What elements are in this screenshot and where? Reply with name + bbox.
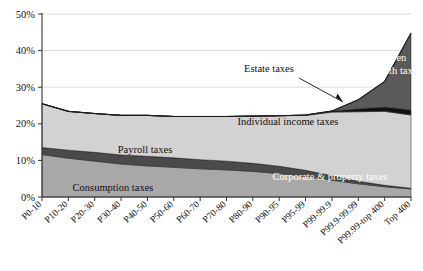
x-tick-label: P70-80 — [201, 199, 228, 225]
tax-rate-area-chart: 0%10%20%30%40%50% P0-10P10-20P20-30P30-4… — [0, 0, 423, 271]
x-tick-label-group: P99.99-top 400 — [336, 199, 386, 246]
estate-taxes-annotation: Estate taxes — [244, 63, 343, 102]
x-tick-label: P99.99-top 400 — [336, 199, 386, 246]
x-tick-label: P90-95 — [253, 199, 280, 225]
y-tick-label: 50% — [16, 9, 36, 20]
x-tick-label: P60-70 — [174, 199, 201, 225]
x-tick-label-group: P90-95 — [253, 199, 280, 225]
series-label-warren-line1: Warren — [376, 52, 407, 63]
x-tick-label: P20-30 — [69, 199, 96, 225]
x-tick-label-group: P40-50 — [122, 199, 149, 225]
series-label-warren-line2: wealth tax — [369, 65, 413, 76]
chart-canvas: 0%10%20%30%40%50% P0-10P10-20P20-30P30-4… — [0, 0, 423, 271]
x-tick-label: P10-20 — [43, 199, 70, 225]
x-tick-label-group: P70-80 — [201, 199, 228, 225]
estate-taxes-annotation-label: Estate taxes — [244, 63, 294, 74]
x-tick-label-group: P30-40 — [95, 199, 122, 225]
area-series-warren-wealth-tax — [42, 33, 411, 116]
x-tick-label-group: P50-60 — [148, 199, 175, 225]
x-tick-label: P40-50 — [122, 199, 149, 225]
series-label-corporate-property-taxes: Corporate & property taxes — [272, 171, 387, 182]
x-tick-label-group: P10-20 — [43, 199, 70, 225]
x-tick-label: Top 400 — [382, 199, 412, 228]
x-tick-label-group: Top 400 — [382, 199, 412, 228]
x-tick-label-group: P80-90 — [227, 199, 254, 225]
y-tick-label: 10% — [16, 155, 36, 166]
x-tick-label: P30-40 — [95, 199, 122, 225]
x-axis-tick-labels: P0-10P10-20P20-30P30-40P40-50P50-60P60-7… — [20, 199, 413, 246]
x-tick-label: P80-90 — [227, 199, 254, 225]
x-tick-label-group: P20-30 — [69, 199, 96, 225]
x-tick-label-group: P60-70 — [174, 199, 201, 225]
series-label-consumption-taxes: Consumption taxes — [73, 182, 154, 193]
x-tick-label: P50-60 — [148, 199, 175, 225]
series-label-individual-income-taxes: Individual income taxes — [238, 116, 339, 127]
estate-taxes-leader-line — [299, 78, 343, 102]
y-tick-label: 20% — [16, 118, 36, 129]
y-tick-label: 40% — [16, 45, 36, 56]
estate-taxes-arrowhead — [336, 94, 343, 103]
y-tick-label: 30% — [16, 82, 36, 93]
y-axis-tick-labels: 0%10%20%30%40%50% — [16, 9, 36, 203]
series-label-payroll-taxes: Payroll taxes — [118, 144, 173, 155]
